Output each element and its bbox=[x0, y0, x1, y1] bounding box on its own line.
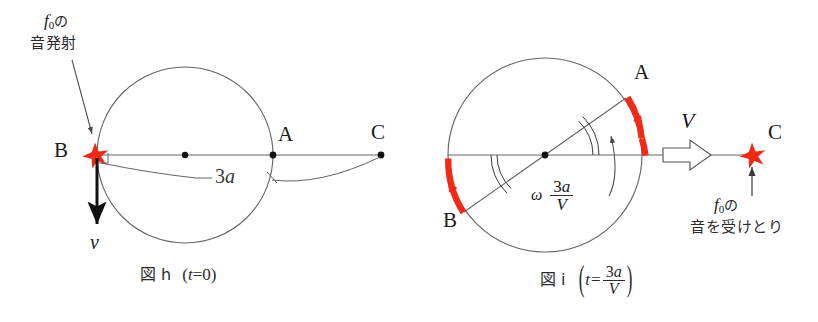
panel-h-caption-val: 0 bbox=[202, 265, 211, 284]
panel-i-caption-fig: 図 i bbox=[540, 270, 566, 289]
panel-h-velocity-label: v bbox=[90, 232, 99, 252]
panel-h-caption: 図 h (t=0) bbox=[140, 266, 217, 283]
panel-h-caption-fig: 図 h bbox=[140, 265, 171, 284]
panel-i-angle-frac-num-n: 3 bbox=[553, 177, 562, 196]
panel-h-caption-eq: = bbox=[193, 265, 203, 284]
panel-i-angle-omega: ω bbox=[531, 186, 542, 203]
panel-i-caption-eq: = bbox=[591, 270, 601, 289]
panel-i-speed-label: V bbox=[681, 110, 694, 132]
panel-i-star-c bbox=[739, 143, 765, 169]
panel-h-annotation-pointer bbox=[72, 60, 92, 134]
panel-h-point-a-dot bbox=[270, 152, 277, 159]
panel-h-caption-paren-close: ) bbox=[211, 265, 217, 284]
panel-h-label-a: A bbox=[278, 124, 293, 145]
panel-i-angle-frac-den: V bbox=[550, 196, 573, 213]
panel-i-angle-fraction: 3a V bbox=[550, 178, 573, 214]
panel-i-velocity-block-arrow bbox=[663, 140, 711, 170]
panel-i-label-b: B bbox=[443, 210, 457, 231]
panel-i-arc-a-lower bbox=[642, 139, 646, 156]
panel-h-distance-symbol: a bbox=[225, 165, 235, 187]
panel-i-angle-frac-num-s: a bbox=[562, 177, 571, 196]
panel-i-caption-frac-num-n: 3 bbox=[606, 263, 614, 280]
figure-vector-layer bbox=[0, 0, 818, 322]
panel-i-caption-frac-num: 3a bbox=[603, 264, 625, 281]
panel-h-dim-leader-right bbox=[272, 157, 380, 181]
panel-h-label-b: B bbox=[54, 140, 68, 161]
panel-i-caption-frac-den: V bbox=[603, 281, 625, 297]
panel-i-center-dot bbox=[542, 152, 549, 159]
panel-i-label-c: C bbox=[768, 122, 782, 143]
panel-i-caption-fraction: 3a V bbox=[603, 264, 625, 298]
panel-i-angle-frac-num: 3a bbox=[550, 178, 573, 196]
panel-i-caption-paren-close: ) bbox=[627, 261, 633, 296]
panel-i-label-a: A bbox=[634, 62, 649, 83]
panel-i-caption-paren-open: ( bbox=[579, 261, 585, 296]
panel-h-label-c: C bbox=[371, 122, 385, 143]
panel-h-graphics bbox=[72, 60, 384, 243]
panel-i-annotation-line1: f0の bbox=[714, 196, 738, 215]
panel-i-annotation-no: の bbox=[724, 197, 738, 213]
figure-canvas: f0の 音発射 B A C v 3a 図 h (t=0) A B C V ω 3… bbox=[0, 0, 818, 322]
panel-i-annotation-line2: 音を受けとり bbox=[690, 220, 783, 235]
panel-i-caption-frac-num-s: a bbox=[614, 263, 622, 280]
panel-h-distance-number: 3 bbox=[215, 165, 225, 187]
panel-h-center-dot bbox=[182, 152, 188, 158]
panel-i-caption-t: t bbox=[585, 270, 590, 289]
panel-h-dim-leader-left bbox=[101, 163, 196, 178]
panel-i-caption: 図 i (t= 3a V ) bbox=[540, 264, 632, 298]
panel-h-annotation-line2: 音発射 bbox=[30, 36, 77, 51]
panel-h-annotation-line1: f0の bbox=[44, 12, 68, 31]
panel-h-distance-label: 3a bbox=[215, 166, 235, 186]
panel-h-annotation-no: の bbox=[54, 13, 68, 29]
panel-i-angle-label: ω 3a V bbox=[531, 178, 573, 214]
panel-i-rotation-arrow bbox=[609, 136, 615, 196]
